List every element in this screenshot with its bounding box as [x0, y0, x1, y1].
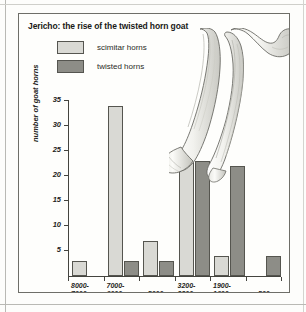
bar-twisted-2: [159, 261, 174, 276]
page-edge-right: [303, 0, 304, 312]
x-category-era-3: BC: [193, 291, 202, 293]
chart-title: Jericho: the rise of the twisted horn go…: [28, 21, 188, 31]
x-category-line1-5: AD 500: [249, 290, 270, 293]
x-category-line2-3: 2300 BC: [178, 290, 203, 293]
x-tick-5: [246, 277, 247, 281]
x-category-era-1: BC: [122, 291, 131, 293]
x-category-label-1: 7000-6000 BC: [107, 282, 132, 293]
x-tick-1: [104, 277, 105, 281]
y-tick-10: 10: [64, 225, 68, 226]
y-axis-label: number of goat horns: [31, 65, 40, 143]
x-category-label-5: AD 500: [249, 282, 270, 293]
x-category-line1-1: 7000-: [107, 282, 132, 290]
x-category-line1-3: 3200-: [178, 282, 203, 290]
y-tick-15: 15: [64, 200, 68, 201]
x-category-line1-2: c.5000 BC: [142, 290, 173, 293]
x-category-line2-4: 1600 BC: [213, 290, 238, 293]
y-tick-label-15: 15: [53, 195, 61, 204]
y-axis-line: [68, 100, 69, 277]
legend-swatch-twisted: [57, 60, 84, 73]
y-tick-25: 25: [64, 150, 68, 151]
legend-label-twisted: twisted horns: [97, 62, 144, 71]
y-tick-35: 35: [64, 100, 68, 101]
plot-area: 5101520253035: [68, 100, 281, 277]
x-tick-3: [175, 277, 176, 281]
y-tick-20: 20: [64, 175, 68, 176]
chart-figure: Jericho: the rise of the twisted horn go…: [18, 13, 290, 293]
y-tick-label-25: 25: [53, 145, 61, 154]
legend-item-twisted: twisted horns: [57, 57, 147, 76]
bar-twisted-4: [230, 166, 245, 276]
x-category-era-4: BC: [229, 291, 238, 293]
legend-swatch-scimitar: [57, 41, 84, 54]
bar-scimitar-0: [72, 261, 87, 276]
legend-label-scimitar: scimitar horns: [97, 43, 147, 52]
y-tick-label-20: 20: [53, 170, 61, 179]
scanned-page: Jericho: the rise of the twisted horn go…: [0, 0, 306, 312]
bar-scimitar-4: [214, 256, 229, 276]
page-edge-bottom: [0, 304, 306, 305]
y-tick-label-5: 5: [57, 245, 61, 254]
bar-scimitar-2: [143, 241, 158, 276]
y-tick-label-30: 30: [53, 120, 61, 129]
x-category-line2-0: 7000 BC: [71, 290, 96, 293]
x-category-line1-0: 8000-: [71, 282, 96, 290]
bar-twisted-3: [195, 161, 210, 276]
y-tick-30: 30: [64, 125, 68, 126]
bar-twisted-1: [124, 261, 139, 276]
x-category-era-5: AD: [249, 291, 258, 293]
x-tick-0: [68, 277, 69, 281]
bar-twisted-5: [266, 256, 281, 276]
x-category-line1-4: 1900-: [213, 282, 238, 290]
x-category-era-2: BC: [163, 291, 172, 293]
x-category-label-4: 1900-1600 BC: [213, 282, 238, 293]
legend-item-scimitar: scimitar horns: [57, 38, 147, 57]
y-tick-5: 5: [64, 250, 68, 251]
chart-legend: scimitar horns twisted horns: [57, 38, 147, 76]
x-tick-6: [281, 277, 282, 281]
x-category-label-2: c.5000 BC: [142, 282, 173, 293]
bar-scimitar-3: [179, 161, 194, 276]
x-category-era-0: BC: [87, 291, 96, 293]
x-category-label-3: 3200-2300 BC: [178, 282, 203, 293]
x-tick-2: [139, 277, 140, 281]
y-tick-label-35: 35: [53, 95, 61, 104]
x-tick-4: [210, 277, 211, 281]
x-category-label-0: 8000-7000 BC: [71, 282, 96, 293]
y-tick-label-10: 10: [53, 220, 61, 229]
page-edge-left: [5, 0, 6, 312]
x-category-line2-1: 6000 BC: [107, 290, 132, 293]
bar-scimitar-1: [108, 106, 123, 276]
page-edge-top: [0, 4, 306, 5]
